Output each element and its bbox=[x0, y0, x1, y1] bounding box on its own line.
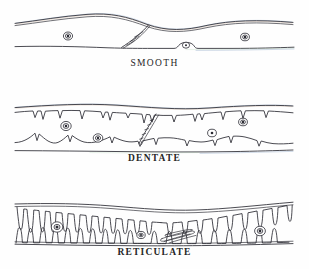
panel-smooth: SMOOTH bbox=[0, 0, 309, 90]
central-elongate-lobe bbox=[165, 229, 192, 236]
panel-label-dentate: DENTATE bbox=[0, 154, 309, 164]
panel-dentate: DENTATE bbox=[0, 90, 309, 180]
panel-label-reticulate: RETICULATE bbox=[0, 248, 309, 258]
figure-canvas: SMOOTH bbox=[0, 0, 309, 269]
lower-dentate-line bbox=[15, 133, 293, 146]
central-zigzag-suture-inner bbox=[141, 115, 158, 145]
panel-reticulate: RETICULATE bbox=[0, 180, 309, 269]
smooth-diagram bbox=[0, 0, 309, 90]
nucleus-marker bbox=[255, 226, 266, 236]
lower-outer-line bbox=[15, 244, 293, 246]
panel-label-smooth: SMOOTH bbox=[0, 59, 309, 69]
nucleus-marker bbox=[61, 121, 71, 130]
central-oblique-suture bbox=[122, 25, 149, 47]
lower-boundary-line bbox=[15, 42, 294, 48]
nucleus-marker bbox=[241, 33, 250, 41]
nucleus-marker bbox=[63, 32, 72, 40]
nucleus-marker bbox=[51, 222, 63, 232]
nucleus-marker bbox=[93, 134, 103, 142]
dentate-diagram bbox=[0, 90, 309, 180]
interlocking-lobes-upper bbox=[17, 207, 161, 235]
lower-outer-line bbox=[15, 150, 293, 152]
nucleus-marker bbox=[239, 118, 248, 126]
nucleus-marker bbox=[137, 231, 145, 238]
nucleus-marker bbox=[208, 129, 217, 137]
nucleus-marker bbox=[182, 42, 189, 48]
